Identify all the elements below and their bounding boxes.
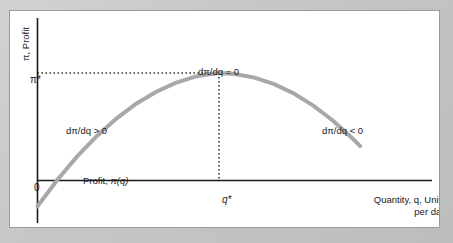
y-tick-label-pi-star: π*	[30, 74, 41, 87]
x-tick-label-q-star: q*	[222, 194, 231, 207]
curve-label-function: π(q)	[110, 175, 128, 186]
chart-panel: π, Profit π* 0 q* dπ/dq = 0 dπ/dq > 0 dπ…	[9, 10, 440, 228]
annotation-derivative-positive: dπ/dq > 0	[66, 125, 107, 137]
annotation-derivative-negative: dπ/dq < 0	[322, 125, 363, 137]
y-tick-pi-star-text: π*	[30, 74, 41, 85]
y-axis-title: π, Profit	[20, 27, 32, 61]
x-axis-title-line1: Quantity, q, Units	[374, 194, 440, 205]
annotation-derivative-zero: dπ/dq = 0	[198, 66, 239, 78]
figure-root: π, Profit π* 0 q* dπ/dq = 0 dπ/dq > 0 dπ…	[0, 0, 453, 243]
x-axis-title-line2: per day	[414, 206, 440, 217]
curve-label: Profit, π(q)	[83, 175, 128, 187]
x-tick-q-star-text: q*	[222, 194, 231, 205]
curve-label-prefix: Profit,	[83, 175, 110, 186]
y-tick-label-zero: 0	[34, 182, 40, 195]
x-axis-title: Quantity, q, Unitsper day	[350, 194, 440, 218]
y-tick-zero-text: 0	[34, 182, 40, 193]
